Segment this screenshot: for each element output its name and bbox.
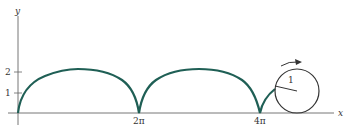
y-tick-label-1: 1: [5, 88, 11, 98]
rotation-arrow-icon: [281, 62, 298, 66]
diagram-canvas: y x 1 2 2π 4π 1: [0, 0, 351, 131]
y-tick-label-2: 2: [5, 67, 11, 77]
axes: [8, 16, 334, 125]
y-axis-label: y: [14, 6, 21, 16]
cycloid-curve: [18, 69, 275, 113]
rolling-circle: [275, 59, 319, 113]
x-tick-label-2pi: 2π: [133, 116, 145, 126]
cycloid-diagram: y x 1 2 2π 4π 1: [0, 0, 351, 131]
x-tick-label-4pi: 4π: [254, 116, 266, 126]
radius-line: [275, 86, 297, 91]
x-axis-label: x: [338, 108, 343, 118]
arrowhead-icon: [295, 59, 302, 65]
radius-label: 1: [288, 75, 294, 85]
